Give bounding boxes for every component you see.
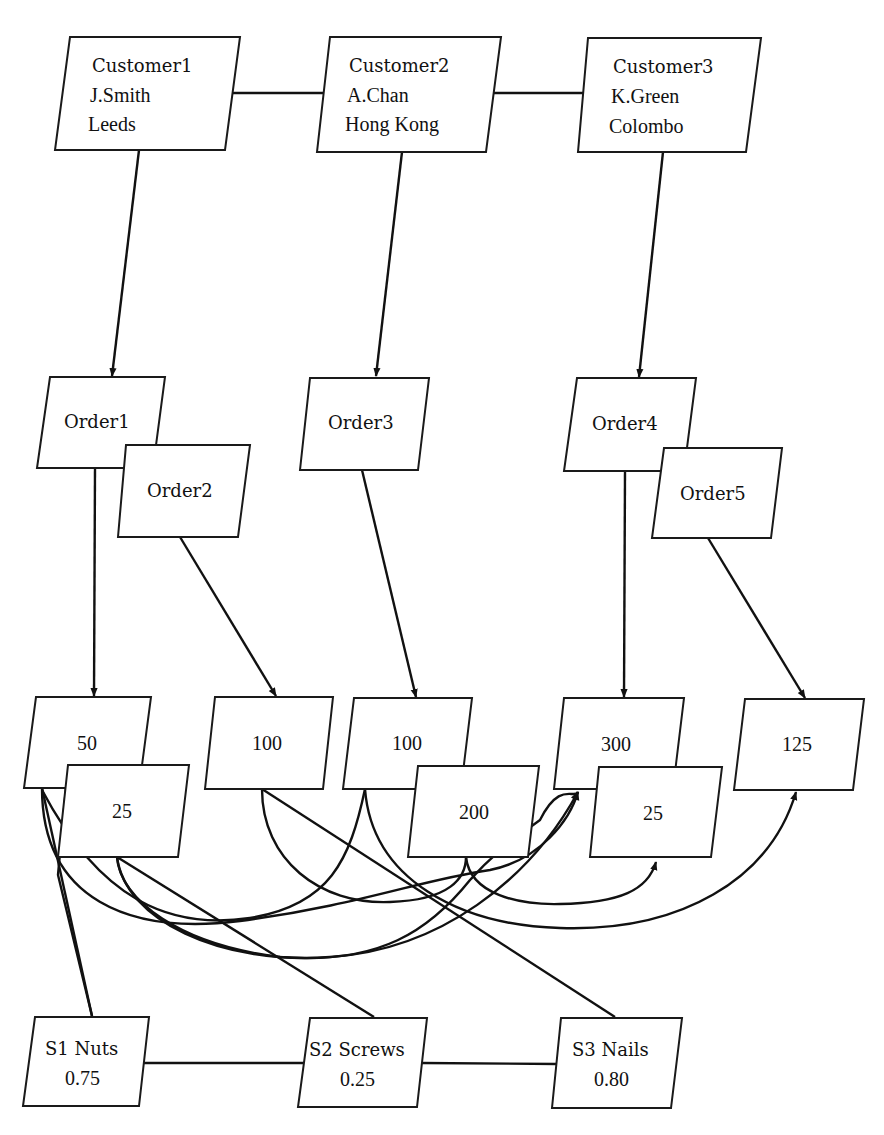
quantity-record-qty-100-a[interactable]: 100 — [205, 697, 333, 789]
quantity-value: 25 — [643, 802, 663, 824]
edge-order4-qty300 — [624, 471, 625, 697]
quantity-record-qty-25-a[interactable]: 25 — [58, 765, 189, 857]
quantities-layer: 502510010020030025125 — [24, 697, 864, 857]
order-label: Order5 — [680, 483, 746, 504]
order-record-order5[interactable]: Order5 — [652, 448, 782, 538]
customer-city: Colombo — [609, 115, 683, 137]
edges-layer — [42, 93, 805, 1064]
edge-order2-qty100a — [180, 537, 276, 696]
customer-record-customer2[interactable]: Customer2A.ChanHong Kong — [317, 37, 501, 152]
supplier-price: 0.75 — [65, 1067, 100, 1089]
customer-record-customer3[interactable]: Customer3K.GreenColombo — [578, 38, 761, 152]
supplier-record-s1[interactable]: S1 Nuts0.75 — [23, 1017, 149, 1106]
supplier-price: 0.80 — [594, 1068, 629, 1090]
customer-name: J.Smith — [90, 84, 151, 106]
edge-order5-qty125 — [708, 538, 805, 698]
edge-supplier2-supplier3 — [422, 1063, 557, 1064]
suppliers-layer: S1 Nuts0.75S2 Screws0.25S3 Nails0.80 — [23, 1017, 682, 1108]
customer-label: Customer2 — [349, 55, 449, 76]
customer-city: Leeds — [88, 113, 136, 135]
quantity-value: 300 — [601, 733, 631, 755]
quantity-value: 125 — [782, 733, 812, 755]
edge-qty200-qty25b — [466, 857, 656, 904]
quantity-record-qty-25-b[interactable]: 25 — [590, 767, 722, 857]
supplier-price: 0.25 — [340, 1068, 375, 1090]
supplier-label: S3 Nails — [572, 1039, 649, 1060]
network-diagram: Customer1J.SmithLeedsCustomer2A.ChanHong… — [0, 0, 884, 1135]
supplier-record-s3[interactable]: S3 Nails0.80 — [552, 1018, 682, 1108]
edge-order1-qty50 — [94, 468, 95, 696]
record-box — [23, 1017, 149, 1106]
order-record-order3[interactable]: Order3 — [300, 378, 429, 470]
customer-label: Customer3 — [613, 56, 713, 77]
order-label: Order3 — [328, 412, 394, 433]
customer-record-customer1[interactable]: Customer1J.SmithLeeds — [55, 37, 240, 150]
supplier-record-s2[interactable]: S2 Screws0.25 — [298, 1018, 427, 1107]
customer-name: A.Chan — [347, 84, 409, 106]
quantity-record-qty-125[interactable]: 125 — [734, 699, 864, 790]
quantity-value: 100 — [252, 732, 282, 754]
customer-city: Hong Kong — [345, 113, 439, 136]
quantity-value: 50 — [77, 732, 97, 754]
customers-layer: Customer1J.SmithLeedsCustomer2A.ChanHong… — [55, 37, 761, 152]
edge-qty25a-supplier2 — [117, 857, 374, 1017]
supplier-label: S1 Nuts — [45, 1038, 118, 1059]
order-label: Order1 — [64, 411, 130, 432]
edge-customer3-order4 — [639, 152, 663, 377]
customer-name: K.Green — [611, 85, 679, 107]
quantity-record-qty-200[interactable]: 200 — [408, 766, 539, 857]
customer-label: Customer1 — [92, 55, 192, 76]
record-box — [552, 1018, 682, 1108]
edge-order3-qty100b — [362, 470, 416, 697]
quantity-value: 100 — [392, 732, 422, 754]
orders-layer: Order1Order2Order3Order4Order5 — [37, 377, 782, 538]
order-record-order2[interactable]: Order2 — [118, 445, 250, 537]
quantity-value: 200 — [459, 801, 489, 823]
edge-customer1-order1 — [112, 150, 139, 376]
quantity-value: 25 — [112, 800, 132, 822]
order-label: Order2 — [147, 480, 213, 501]
supplier-label: S2 Screws — [309, 1039, 405, 1060]
edge-customer2-order3 — [376, 152, 402, 376]
record-box — [298, 1018, 427, 1107]
order-label: Order4 — [592, 413, 658, 434]
